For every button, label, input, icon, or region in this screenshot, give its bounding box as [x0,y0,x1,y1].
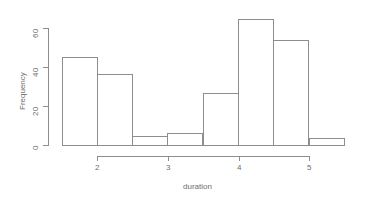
histogram-bar [62,57,98,146]
x-axis-title: duration [183,182,212,191]
y-tick-40 [43,67,48,68]
x-tick-5 [309,156,310,161]
x-tick-3 [168,156,169,161]
y-tick-0 [43,145,48,146]
histogram-screenshot: 60 40 20 0 Frequency 2 3 4 5 duration [0,0,368,203]
plot-area: 60 40 20 0 Frequency 2 3 4 5 duration [0,0,368,203]
histogram-bar [309,138,345,146]
x-tick-label-4: 4 [237,163,242,172]
x-tick-label-2: 2 [95,163,100,172]
y-tick-20 [43,106,48,107]
y-tick-label-20: 20 [31,107,40,116]
histogram-bar [238,19,274,146]
x-tick-4 [239,156,240,161]
x-tick-2 [97,156,98,161]
x-tick-label-3: 3 [166,163,171,172]
histogram-bar [167,133,203,146]
histogram-bar [97,74,133,146]
x-axis-line [97,156,310,157]
y-tick-label-40: 40 [31,68,40,77]
y-tick-60 [43,28,48,29]
x-tick-label-5: 5 [307,163,312,172]
y-axis-line [48,28,49,146]
histogram-bar [132,136,168,146]
histogram-bar [273,40,309,146]
y-tick-label-60: 60 [31,29,40,38]
histogram-bar [203,93,239,146]
y-tick-label-0: 0 [31,145,40,150]
y-axis-title: Frequency [18,72,27,110]
